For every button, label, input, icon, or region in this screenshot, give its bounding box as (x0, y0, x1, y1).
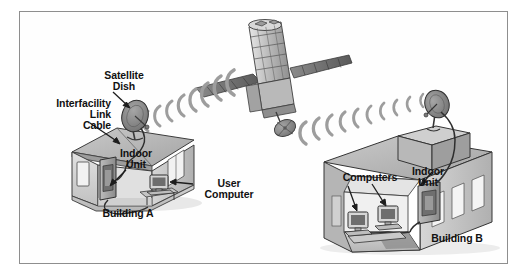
label-satellite-dish: Satellite Dish (88, 70, 160, 92)
label-interfacility-link-cable: Interfacility Link Cable (33, 98, 111, 131)
desktop-computer-b1 (345, 212, 372, 236)
label-user-computer: User Computer (194, 178, 264, 200)
label-indoor-unit-building-a: Indoor Unit (113, 148, 159, 170)
diagram-canvas: Satellite Dish Interfacility Link Cable … (0, 0, 527, 276)
parabolic-antenna-building-b (421, 87, 453, 131)
indoor-unit-cabinet-b (418, 182, 440, 224)
desktop-computer-b2 (375, 206, 402, 230)
label-building-a: Building A (85, 208, 171, 219)
label-computers: Computers (335, 172, 405, 183)
label-indoor-unit-building-b: Indoor Unit (405, 166, 451, 188)
label-building-b: Building B (414, 233, 500, 244)
